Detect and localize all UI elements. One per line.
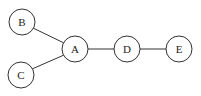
edge-b-a [33,28,64,43]
node-b-label: B [18,16,25,28]
node-a-label: A [71,43,79,55]
node-d-label: D [123,43,131,55]
graph-diagram: B C A D E [0,0,201,96]
edges [32,28,166,69]
node-c-label: C [17,69,24,81]
node-e: E [166,36,192,62]
edge-c-a [32,55,64,69]
node-d: D [114,36,140,62]
node-b: B [9,9,35,35]
node-e-label: E [176,43,183,55]
node-c: C [8,62,34,88]
node-a: A [62,36,88,62]
